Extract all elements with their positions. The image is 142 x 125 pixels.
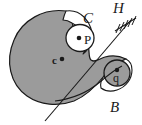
label-curve-C: C (83, 11, 93, 26)
label-center-c: c (52, 55, 57, 66)
label-ground-H: H (113, 1, 124, 16)
label-point-q: q (113, 72, 119, 84)
figure-container: C H P c q B (0, 0, 142, 125)
ground-hatch-symbol (115, 16, 136, 33)
label-point-P: P (84, 33, 91, 46)
point-marker-P (77, 36, 82, 41)
label-curve-B: B (110, 100, 119, 115)
point-marker-c (60, 57, 65, 62)
diagram-svg (0, 0, 142, 125)
